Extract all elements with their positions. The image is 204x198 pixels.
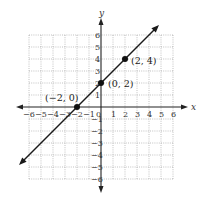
svg-text:−5: −5 [35, 110, 47, 119]
svg-text:−6: −6 [91, 175, 103, 184]
svg-text:−1: −1 [91, 115, 103, 124]
svg-text:3: 3 [95, 67, 100, 76]
y-axis-up-arrow-icon [99, 18, 104, 25]
svg-text:−5: −5 [91, 163, 103, 172]
svg-text:3: 3 [135, 110, 140, 119]
point-label-0-2: (0, 2) [108, 78, 134, 89]
point-label-2-4: (2, 4) [131, 55, 157, 66]
x-axis [16, 105, 188, 110]
svg-text:1: 1 [111, 110, 116, 119]
svg-text:5: 5 [159, 110, 164, 119]
x-axis-left-arrow-icon [16, 105, 23, 110]
svg-text:4: 4 [95, 55, 100, 64]
svg-text:−6: −6 [23, 110, 35, 119]
x-axis-right-arrow-icon [181, 105, 188, 110]
y-axis-down-arrow-icon [99, 186, 104, 193]
svg-text:−4: −4 [91, 151, 103, 160]
svg-text:−2: −2 [91, 127, 103, 136]
point-0-2 [98, 80, 104, 86]
svg-text:−4: −4 [47, 110, 59, 119]
point-neg2-0 [74, 104, 80, 110]
point-label-neg2-0: (−2, 0) [45, 92, 79, 103]
svg-text:−3: −3 [91, 139, 103, 148]
coordinate-plane: y x −6 −5 −4 −3 −2 −1 0 1 2 3 4 5 6 6 5 … [0, 0, 204, 198]
y-axis-label: y [98, 8, 105, 18]
point-2-4 [122, 56, 128, 62]
svg-text:5: 5 [95, 43, 100, 52]
svg-text:6: 6 [171, 110, 176, 119]
x-axis-label: x [191, 102, 196, 112]
svg-text:4: 4 [147, 110, 152, 119]
svg-text:1: 1 [95, 91, 100, 100]
svg-text:2: 2 [123, 110, 128, 119]
svg-text:6: 6 [95, 31, 100, 40]
